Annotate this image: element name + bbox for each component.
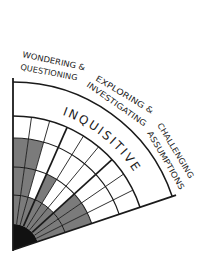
inquisitive-wheel-diagram: WONDERING & QUESTIONING EXPLORING & INVE…: [0, 0, 211, 264]
